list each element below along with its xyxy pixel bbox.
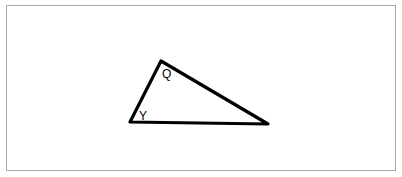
triangle-diagram: Q Y bbox=[0, 0, 402, 177]
angle-label-y: Y bbox=[139, 109, 147, 123]
angle-label-q: Q bbox=[162, 67, 171, 81]
triangle-shape bbox=[130, 61, 268, 124]
